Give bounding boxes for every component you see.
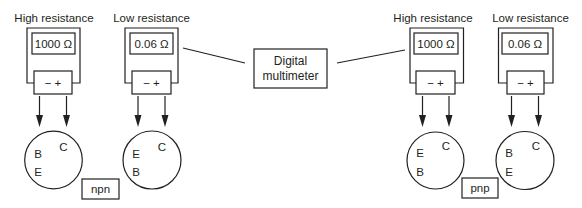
polarity-label: − +	[427, 77, 444, 89]
multimeter-label-line1: Digital	[274, 54, 307, 68]
pin-label: E	[416, 147, 424, 159]
leader-line-right	[337, 50, 405, 63]
meter-reading: 1000 Ω	[35, 38, 73, 50]
pin-label: C	[442, 140, 450, 152]
pin-label: B	[416, 166, 424, 178]
meter-pnp-low: Low resistance 0.06 Ω − + B E C	[492, 12, 569, 190]
probe-arrow-icon	[36, 96, 43, 127]
pin-label: C	[59, 141, 67, 153]
pin-label: B	[505, 147, 513, 159]
pin-label: E	[34, 166, 42, 178]
meter-reading: 0.06 Ω	[134, 38, 169, 50]
transistor-test-diagram: High resistance 1000 Ω − + B E C Low res…	[0, 0, 582, 208]
meter-title: High resistance	[393, 12, 472, 24]
meter-pnp-high: High resistance 1000 Ω − + E B C	[393, 12, 472, 189]
transistor-body	[496, 132, 554, 190]
meter-npn-low: Low resistance 0.06 Ω − + E B C	[113, 12, 190, 189]
multimeter-label-line2: multimeter	[262, 69, 318, 83]
probe-arrow-icon	[508, 96, 515, 127]
probe-arrow-icon	[63, 96, 70, 127]
pin-label: B	[34, 148, 42, 160]
meter-reading: 1000 Ω	[417, 38, 455, 50]
pin-label: C	[532, 140, 540, 152]
type-label: pnp	[470, 182, 489, 194]
meter-title: Low resistance	[113, 12, 190, 24]
pin-label: B	[132, 166, 140, 178]
npn-group: High resistance 1000 Ω − + B E C Low res…	[14, 12, 189, 199]
probe-arrow-icon	[535, 96, 542, 127]
pnp-group: High resistance 1000 Ω − + E B C Low res…	[393, 12, 568, 198]
meter-reading: 0.06 Ω	[508, 38, 543, 50]
transistor-type-badge-pnp: pnp	[462, 178, 498, 198]
leader-line-left	[183, 48, 245, 63]
type-label: npn	[91, 183, 110, 195]
pin-label: E	[505, 166, 513, 178]
polarity-label: − +	[143, 77, 160, 89]
polarity-label: − +	[517, 77, 534, 89]
transistor-type-badge-npn: npn	[82, 179, 119, 199]
probe-arrow-icon	[446, 96, 453, 127]
probe-arrow-icon	[419, 96, 426, 127]
meter-npn-high: High resistance 1000 Ω − + B E C	[14, 12, 93, 189]
transistor-body	[25, 131, 83, 189]
polarity-label: − +	[45, 77, 62, 89]
probe-arrow-icon	[162, 96, 169, 127]
meter-title: Low resistance	[492, 12, 569, 24]
meter-title: High resistance	[14, 12, 93, 24]
digital-multimeter-callout: Digital multimeter	[183, 48, 405, 88]
transistor-body	[123, 131, 181, 189]
pin-label: C	[158, 141, 166, 153]
pin-label: E	[132, 148, 140, 160]
transistor-body	[407, 132, 464, 189]
probe-arrow-icon	[135, 96, 142, 127]
